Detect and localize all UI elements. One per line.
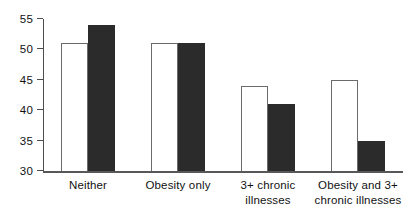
x-axis-category-label-line: chronic illnesses	[313, 193, 403, 208]
x-axis-category-label-line: Neither	[43, 178, 133, 193]
y-axis-tick-label: 35	[0, 133, 33, 149]
bar-filled-2	[268, 104, 295, 171]
y-axis-tick-label: 45	[0, 72, 33, 88]
x-axis-category-label: Obesity and 3+chronic illnesses	[313, 178, 403, 207]
x-axis-category-label: 3+ chronicillnesses	[223, 178, 313, 207]
x-axis-line	[43, 171, 403, 173]
x-axis-category-label-line: 3+ chronic	[223, 178, 313, 193]
y-axis-tick-label: 55	[0, 11, 33, 27]
x-axis-category-label: Neither	[43, 178, 133, 193]
x-axis-category-label-line: illnesses	[223, 193, 313, 208]
x-axis-category-label-line: Obesity only	[133, 178, 223, 193]
y-axis-tick-label: 40	[0, 102, 33, 118]
bar-open-2	[241, 86, 268, 171]
bar-open-3	[331, 80, 358, 171]
bar-filled-3	[358, 141, 385, 171]
bar-open-1	[151, 43, 178, 171]
bar-chart: 303540455055 NeitherObesity only3+ chron…	[0, 0, 419, 223]
plot-area	[43, 19, 403, 171]
y-axis-tick-label: 50	[0, 41, 33, 57]
x-axis-category-label-line: Obesity and 3+	[313, 178, 403, 193]
bar-filled-1	[178, 43, 205, 171]
x-axis-category-label: Obesity only	[133, 178, 223, 193]
bar-open-0	[61, 43, 88, 171]
y-axis-tick-label: 30	[0, 163, 33, 179]
bar-filled-0	[88, 25, 115, 171]
